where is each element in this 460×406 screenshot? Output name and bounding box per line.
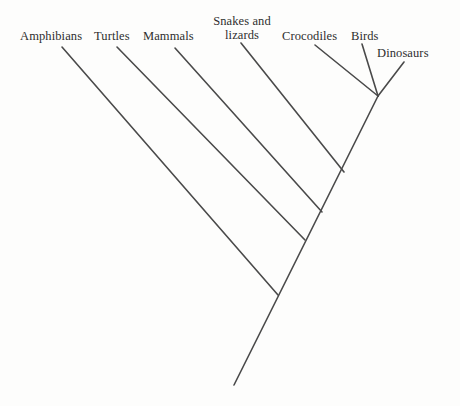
taxon-label-turtles: Turtles [94,30,130,44]
taxon-label-crocodiles: Crocodiles [282,30,337,44]
phylogenetic-tree-graphic [0,0,460,406]
taxon-label-mammals: Mammals [143,30,194,44]
taxon-label-snakes-bottom: lizards [199,29,285,43]
cladogram-figure: Amphibians Turtles Mammals Snakes and li… [0,0,460,406]
branch-dinosaurs [378,62,404,96]
taxon-label-birds: Birds [351,30,379,44]
taxon-label-snakes-and-lizards: Snakes and lizards Snakes and lizards [199,15,285,42]
taxon-label-snakes-top: Snakes and [199,15,285,29]
taxon-label-dinosaurs: Dinosaurs [377,47,429,61]
branch-crocodiles [315,45,378,96]
taxon-label-amphibians: Amphibians [20,30,82,44]
branch-amphibians [62,47,278,295]
tree-spine [234,96,378,385]
branch-birds [362,44,378,96]
branch-snakes-lizards [241,43,344,172]
